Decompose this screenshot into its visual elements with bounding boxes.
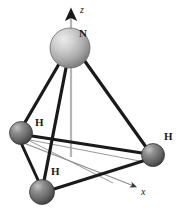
hydrogen-right-label: H [164, 131, 173, 142]
molecule-diagram-canvas [0, 0, 182, 213]
hydrogen-left-label: H [35, 117, 44, 128]
x-axis-line [16, 140, 134, 186]
hydrogen-bottom-label: H [51, 166, 60, 177]
x-axis-label: x [141, 187, 145, 197]
x-axis [16, 140, 134, 186]
bond-n-hleft [24, 64, 59, 124]
atom-hydrogen-left [10, 122, 33, 145]
atom-hydrogen-right [142, 144, 165, 167]
z-axis-label: z [80, 5, 84, 15]
molecular-geometry-figure: z x N H H H [0, 0, 182, 213]
nitrogen-label: N [79, 28, 87, 39]
atom-hydrogen-bottom [30, 180, 55, 205]
bond-hleft-hbottom [22, 145, 38, 180]
bond-n-hright [84, 60, 146, 147]
